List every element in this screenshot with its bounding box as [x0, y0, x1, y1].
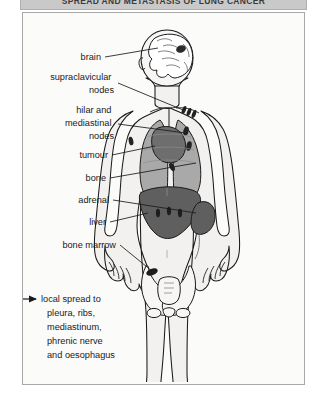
label-line: nodes	[89, 85, 114, 95]
label-group: brain supraclavicular nodes hilar and me…	[50, 52, 116, 250]
label-supraclavicular-nodes: supraclavicular nodes	[50, 72, 114, 95]
label-liver: liver	[89, 217, 106, 227]
label-line: mediastinal	[65, 118, 111, 128]
label-bone: bone	[86, 173, 106, 183]
label-adrenal: adrenal	[78, 195, 109, 205]
label-line: supraclavicular	[50, 72, 111, 82]
label-line: hilar and	[76, 105, 111, 115]
label-tumour: tumour	[79, 150, 108, 160]
caption-line: mediastinum,	[47, 322, 102, 332]
figure-container: Spread and metastasis of lung cancer	[0, 0, 325, 395]
neck	[155, 86, 179, 109]
label-bone-marrow: bone marrow	[62, 240, 116, 250]
diagram-canvas: brain supraclavicular nodes hilar and me…	[0, 0, 325, 395]
caption-line: phrenic nerve	[47, 336, 103, 346]
caption-line: and oesophagus	[47, 350, 115, 360]
svg-text:local spread to pleu: local spread to pleura, ribs, mediastinu…	[41, 294, 115, 360]
caption-block: local spread to pleura, ribs, mediastinu…	[16, 294, 115, 360]
caption-line: pleura, ribs,	[47, 308, 95, 318]
label-line: nodes	[89, 131, 114, 141]
caption-line: local spread to	[41, 294, 101, 304]
label-hilar-mediastinal-nodes: hilar and mediastinal nodes	[65, 105, 114, 141]
label-brain: brain	[81, 52, 101, 62]
human-figure	[94, 30, 239, 392]
